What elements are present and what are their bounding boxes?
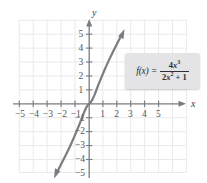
function-graph-figure: −5 −4 −3 −2 −1 1 2 3 4 5 5 4 3 2 1 −1 −2… [0, 0, 207, 183]
formula-numerator: 4x3 [167, 61, 183, 71]
x-tick-label-1: 1 [100, 110, 105, 120]
y-tick-label--1: −1 [75, 114, 85, 124]
denominator-addend: + 1 [176, 72, 187, 82]
denominator-exponent: 2 [170, 71, 173, 77]
y-tick-label-1: 1 [79, 86, 84, 96]
x-tick-label--5: −5 [15, 110, 25, 120]
y-tick-label--4: −4 [75, 155, 85, 165]
numerator-exponent: 3 [177, 59, 180, 65]
formula-callout: f(x) = 4x3 2x2 + 1 [125, 53, 200, 89]
x-tick-label-4: 4 [142, 110, 147, 120]
y-tick-label--2: −2 [75, 127, 85, 137]
y-axis [86, 19, 92, 178]
y-tick-label-3: 3 [79, 58, 84, 68]
x-axis-label: x [191, 99, 195, 109]
y-tick-label-2: 2 [79, 72, 84, 82]
x-tick-label-5: 5 [156, 110, 161, 120]
grid-lines [19, 20, 186, 173]
x-axis [13, 101, 186, 107]
x-tick-label-2: 2 [114, 110, 119, 120]
y-axis-label: y [92, 8, 96, 18]
plot-area [0, 0, 207, 183]
formula-equals: = [152, 66, 157, 76]
formula-fraction: 4x3 2x2 + 1 [160, 61, 189, 81]
x-tick-label--2: −2 [57, 110, 67, 120]
x-tick-label--3: −3 [43, 110, 53, 120]
formula-denominator: 2x2 + 1 [160, 72, 189, 82]
x-tick-label-3: 3 [128, 110, 133, 120]
y-tick-label--5: −5 [75, 169, 85, 179]
x-tick-label--4: −4 [29, 110, 39, 120]
y-tick-label-5: 5 [79, 30, 84, 40]
formula-lhs: f(x) [136, 66, 148, 76]
y-tick-label--3: −3 [75, 141, 85, 151]
y-tick-label-4: 4 [79, 44, 84, 54]
